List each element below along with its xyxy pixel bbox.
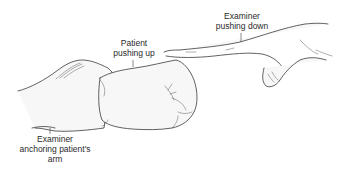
label-line: anchoring patient's: [18, 144, 92, 154]
label-patient-pushing-up: Patient pushing up: [104, 38, 164, 58]
label-line: Examiner: [18, 134, 92, 144]
label-line: Patient: [104, 38, 164, 48]
label-examiner-anchoring-arm: Examiner anchoring patient's arm: [18, 134, 92, 164]
patient-fist: [99, 60, 197, 130]
label-line: pushing up: [104, 48, 164, 58]
label-line: pushing down: [210, 21, 274, 31]
label-examiner-pushing-down: Examiner pushing down: [210, 11, 274, 31]
examiner-anchoring-hand: [18, 60, 112, 131]
label-line: arm: [18, 154, 92, 164]
label-line: Examiner: [210, 11, 274, 21]
